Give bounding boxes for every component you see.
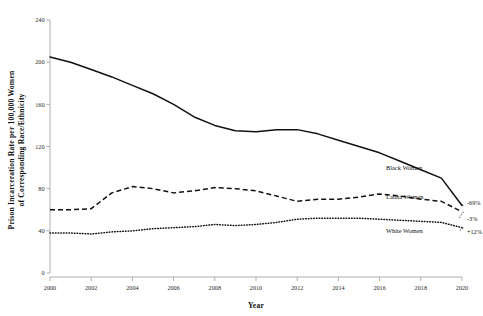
callout-leader-latina-women	[459, 212, 464, 218]
percent-change-black-women: -69%	[467, 199, 480, 206]
y-tick-label: 40	[38, 227, 44, 234]
percent-change-white-women: +12%	[467, 228, 482, 235]
y-tick-label: 160	[35, 101, 44, 108]
x-tick-label: 2000	[44, 284, 56, 291]
x-tick-label: 2014	[332, 284, 344, 291]
line-chart: Prison Incarceration Rate per 100,000 Wo…	[0, 0, 483, 316]
x-tick-label: 2004	[126, 284, 138, 291]
percent-change-latina-women: -3%	[467, 215, 477, 222]
y-tick-label: 240	[35, 16, 44, 23]
x-tick-label: 2008	[209, 284, 221, 291]
y-axis-label-line1: Prison Incarceration Rate per 100,000 Wo…	[7, 70, 16, 229]
y-axis-label-line2: of Corresponding Race/Ethnicity	[17, 93, 26, 206]
y-tick-label: 200	[35, 58, 44, 65]
series-label-black-women: Black Women	[386, 164, 423, 171]
y-tick-label: 80	[38, 185, 44, 192]
axes	[50, 20, 462, 277]
y-axis-ticks: 04080120160200240	[35, 16, 50, 276]
y-tick-label: 0	[41, 269, 44, 276]
series-label-white-women: White Women	[386, 227, 424, 234]
x-tick-label: 2010	[250, 284, 262, 291]
x-tick-label: 2002	[85, 284, 97, 291]
x-tick-label: 2012	[291, 284, 303, 291]
x-tick-label: 2006	[167, 284, 179, 291]
x-axis-ticks: 2000200220042006200820102012201420162018…	[44, 277, 468, 291]
y-axis-label: Prison Incarceration Rate per 100,000 Wo…	[7, 70, 26, 229]
series-line-black-women	[50, 57, 462, 206]
series-layer	[50, 57, 462, 234]
chart-container: Prison Incarceration Rate per 100,000 Wo…	[0, 0, 483, 316]
x-tick-label: 2018	[415, 284, 427, 291]
x-tick-label: 2020	[456, 284, 468, 291]
series-label-latina-women: Latina Women	[386, 193, 424, 200]
x-axis-label: Year	[248, 301, 264, 310]
y-tick-label: 120	[35, 143, 44, 150]
x-tick-label: 2016	[373, 284, 385, 291]
